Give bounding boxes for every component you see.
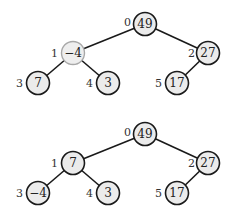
node-value: 49 <box>137 127 152 141</box>
node-index: 2 <box>188 157 195 170</box>
tree-after: 49 0 7 1 27 2 −4 3 3 4 17 5 <box>16 123 220 205</box>
node-value: 3 <box>104 76 112 90</box>
node-index: 3 <box>16 77 23 90</box>
tree-node: −4 3 <box>16 182 50 205</box>
heap-diagram: 49 0 −4 1 27 2 7 3 3 4 17 5 <box>0 0 239 220</box>
node-index: 3 <box>16 187 23 200</box>
node-value: 27 <box>200 46 215 60</box>
node-index: 0 <box>124 16 131 29</box>
node-index: 5 <box>155 187 162 200</box>
node-value: 17 <box>169 76 184 90</box>
tree-node: 49 0 <box>124 123 157 146</box>
node-index: 5 <box>155 77 162 90</box>
node-value: 3 <box>104 186 112 200</box>
node-value: 27 <box>200 156 215 170</box>
tree-node: 17 5 <box>155 72 189 95</box>
tree-node: 7 3 <box>16 72 50 95</box>
node-value: 7 <box>69 156 77 170</box>
tree-node: 27 2 <box>188 152 220 175</box>
tree-node-highlighted: −4 1 <box>51 42 85 65</box>
node-index: 1 <box>51 157 58 170</box>
tree-node: 3 4 <box>86 182 120 205</box>
node-index: 2 <box>188 47 195 60</box>
node-index: 4 <box>86 187 93 200</box>
node-value: −4 <box>64 46 82 60</box>
node-value: 17 <box>169 186 184 200</box>
node-index: 1 <box>51 47 58 60</box>
node-index: 0 <box>124 126 131 139</box>
tree-node: 17 5 <box>155 182 189 205</box>
node-value: −4 <box>29 186 47 200</box>
tree-before: 49 0 −4 1 27 2 7 3 3 4 17 5 <box>16 13 220 95</box>
tree-node: 7 1 <box>51 152 85 175</box>
node-index: 4 <box>86 77 93 90</box>
tree-node: 3 4 <box>86 72 120 95</box>
node-value: 7 <box>34 76 42 90</box>
tree-node: 49 0 <box>124 13 157 36</box>
tree-node: 27 2 <box>188 42 220 65</box>
node-value: 49 <box>137 17 152 31</box>
